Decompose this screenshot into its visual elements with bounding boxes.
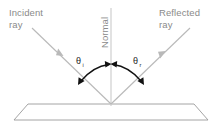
normal-label: Normal <box>99 17 110 48</box>
angle-reflection-arc <box>114 65 141 81</box>
reflection-diagram: Incident ray Reflected ray Normal θ i θ … <box>0 0 219 127</box>
incident-ray-label: Incident ray <box>9 7 43 30</box>
reflected-ray-label-line2: ray <box>159 19 173 30</box>
reflected-ray-group <box>111 28 190 104</box>
angle-incidence-arc <box>82 65 109 81</box>
normal-label-text: Normal <box>99 17 110 48</box>
incident-ray-arrowhead <box>56 49 64 57</box>
reflected-ray-label: Reflected ray <box>159 7 200 30</box>
mirror-surface <box>14 104 208 120</box>
angle-reflection-symbol: θ <box>133 56 138 66</box>
angle-incidence-label: θ i <box>76 56 84 68</box>
reflected-ray-line <box>111 28 190 104</box>
incident-ray-label-line1: Incident <box>9 7 43 18</box>
reflection-diagram-svg: Incident ray Reflected ray Normal θ i θ … <box>0 0 219 127</box>
mirror-surface-group <box>14 104 208 120</box>
reflected-ray-label-line1: Reflected <box>159 7 200 18</box>
angle-reflection-label: θ r <box>133 56 142 68</box>
incident-ray-label-line2: ray <box>9 19 23 30</box>
angle-incidence-symbol: θ <box>76 56 81 66</box>
angle-reflection-subscript: r <box>140 62 142 68</box>
angle-incidence-subscript: i <box>83 62 84 68</box>
